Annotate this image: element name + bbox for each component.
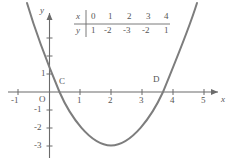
table-rules (74, 10, 170, 37)
table-cell-y-2: -3 (123, 26, 131, 35)
x-tick-label-2: 2 (108, 96, 113, 105)
table-cell-x-4: 4 (164, 12, 169, 21)
table-row-header-y: y (76, 26, 80, 35)
table-cell-y-3: -2 (142, 26, 150, 35)
x-tick-label-3: 3 (139, 96, 144, 105)
y-tick-label--3: -3 (34, 141, 42, 150)
table-cell-y-0: 1 (91, 26, 96, 35)
table-row-header-x: x (76, 12, 80, 21)
x-tick-label-1: 1 (77, 96, 82, 105)
y-tick-label--1: -1 (34, 105, 42, 114)
point-label-c: C (59, 77, 65, 86)
x-axis-label: x (221, 95, 225, 104)
table-cell-x-0: 0 (91, 12, 96, 21)
x-axis-arrow (211, 89, 218, 95)
table-cell-y-1: -2 (104, 26, 112, 35)
x-tick-label--1: -1 (11, 96, 19, 105)
table-cell-y-4: 1 (164, 26, 169, 35)
y-axis-arrow (47, 13, 53, 20)
x-tick-label-5: 5 (201, 96, 206, 105)
table-cell-x-3: 3 (146, 12, 151, 21)
y-tick-label-1: 1 (41, 69, 46, 78)
point-label-d: D (153, 75, 160, 84)
graph-canvas (0, 0, 233, 160)
y-axis-label: y (40, 6, 44, 15)
x-tick-label-4: 4 (170, 96, 175, 105)
origin-label: O (39, 95, 46, 104)
table-cell-x-1: 1 (108, 12, 113, 21)
table-cell-x-2: 2 (127, 12, 132, 21)
y-tick-label--2: -2 (34, 123, 42, 132)
